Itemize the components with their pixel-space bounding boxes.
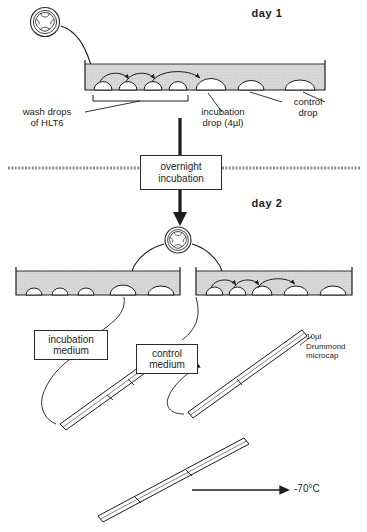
arrow-icon-fill-pipette-2 [167,368,196,414]
embryo-icon-day2 [165,227,191,253]
arrow-icon-fill-pipette-1 [42,358,72,424]
microcap-pipette-icon-3 [98,438,249,522]
figure-caption [6,522,361,532]
protocol-figure: day 1 wash drops of HLT6 incubation drop… [0,0,367,532]
day1-heading: day 1 [232,8,302,19]
label-storage-temperature: -70°C [294,483,350,494]
diagram-canvas [0,0,367,532]
label-wash-drops: wash drops of HLT6 [8,106,86,128]
day2-heading: day 2 [232,198,302,209]
day2-right-dish [196,267,352,295]
microcap-pipette-icon-2 [188,330,307,418]
leader-wash-drops [85,101,140,112]
embryo-icon-day1 [31,8,60,37]
day1-dish [85,60,325,90]
label-microcap: 10µl Drummond microcap [306,332,364,361]
leader-control-medium [182,297,198,340]
label-incubation-drop: incubation drop (4µl) [186,106,260,128]
incubation-medium-box: incubation medium [34,330,108,360]
wash-drops-bracket [93,95,188,101]
label-control-drop: control drop [278,96,338,118]
day2-left-dish [16,267,180,295]
overnight-incubation-box: overnight incubation [140,155,222,190]
control-medium-box: control medium [136,344,198,374]
arrow-icon-to-day2 [173,212,187,226]
